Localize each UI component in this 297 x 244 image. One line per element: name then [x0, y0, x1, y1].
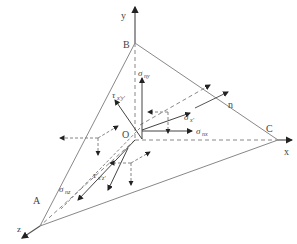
- svg-text:τ: τ: [112, 90, 116, 100]
- label-sigma-nx: σ nx: [196, 126, 208, 137]
- x-axis-label: x: [284, 146, 289, 157]
- svg-text:σ: σ: [138, 68, 143, 78]
- point-o-label: O: [122, 129, 129, 140]
- point-b-label: B: [123, 39, 130, 50]
- svg-text:x'z': x'z': [97, 175, 106, 181]
- label-tau-xy: τ x'y': [112, 90, 126, 101]
- diagram-svg: y x z B O C A n σ ny τ x'y' σ x' σ nx σ …: [0, 0, 297, 244]
- svg-text:σ: σ: [196, 126, 201, 136]
- tetrahedron-edges: [40, 43, 278, 226]
- svg-text:x'y': x'y': [116, 95, 126, 101]
- svg-text:nx: nx: [202, 131, 208, 137]
- label-sigma-nz: σ nz: [59, 184, 71, 195]
- point-c-label: C: [266, 123, 273, 134]
- svg-text:x': x': [189, 117, 195, 123]
- normal-label: n: [228, 99, 233, 110]
- stress-arrows: [78, 78, 192, 200]
- svg-text:σ: σ: [59, 184, 64, 194]
- z-axis: [22, 140, 135, 238]
- svg-text:σ: σ: [184, 112, 189, 122]
- stress-tetrahedron-diagram: y x z B O C A n σ ny τ x'y' σ x' σ nx σ …: [0, 0, 297, 244]
- y-axis-label: y: [121, 10, 126, 21]
- point-a-label: A: [33, 195, 41, 206]
- z-axis-label: z: [17, 224, 21, 234]
- svg-text:ny: ny: [144, 73, 150, 79]
- svg-text:nz: nz: [65, 189, 71, 195]
- label-sigma-ny: σ ny: [138, 68, 150, 79]
